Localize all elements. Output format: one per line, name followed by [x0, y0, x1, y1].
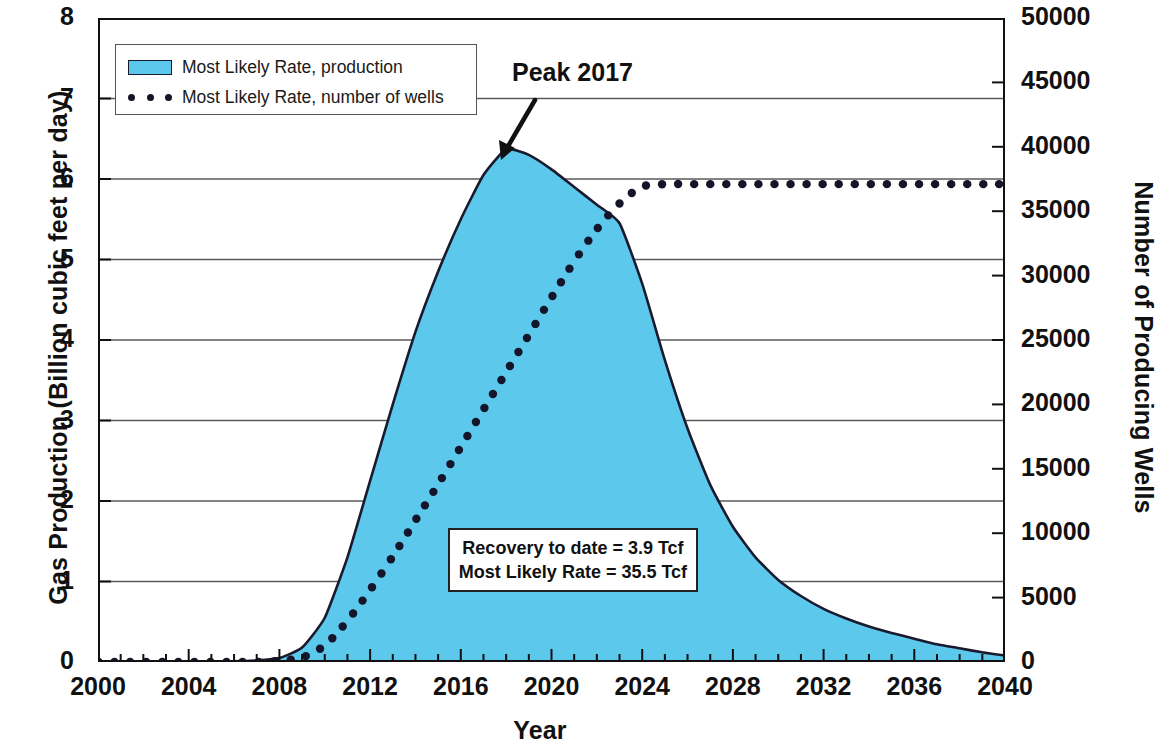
- wells-data-dot: [706, 180, 714, 188]
- wells-data-dot: [349, 609, 357, 617]
- y-axis-right-tick-label: 25000: [1021, 324, 1141, 353]
- y-axis-right-tick-label: 30000: [1021, 260, 1141, 289]
- y-axis-right-tick-label: 15000: [1021, 453, 1141, 482]
- y-axis-right-tick-label: 0: [1021, 646, 1141, 675]
- wells-data-dot: [979, 180, 987, 188]
- wells-data-dot: [947, 180, 955, 188]
- wells-data-dot: [995, 180, 1003, 188]
- wells-data-dot: [754, 180, 762, 188]
- wells-data-dot: [395, 542, 403, 550]
- callout-line-1: Recovery to date = 3.9 Tcf: [462, 536, 683, 560]
- wells-data-dot: [818, 180, 826, 188]
- wells-data-dot: [377, 569, 385, 577]
- y-axis-left-tick-label: 4: [14, 324, 74, 353]
- y-axis-left-tick-label: 8: [14, 2, 74, 31]
- wells-data-dot: [446, 460, 454, 468]
- chart-legend: Most Likely Rate, production Most Likely…: [115, 44, 477, 115]
- wells-data-dot: [404, 528, 412, 536]
- y-axis-right-tick-label: 40000: [1021, 131, 1141, 160]
- y-axis-right-tick-label: 45000: [1021, 66, 1141, 95]
- callout-line-2: Most Likely Rate = 35.5 Tcf: [459, 560, 687, 584]
- wells-data-dot: [899, 180, 907, 188]
- legend-label-wells: Most Likely Rate, number of wells: [182, 87, 444, 108]
- legend-label-production: Most Likely Rate, production: [182, 57, 403, 78]
- wells-data-dot: [455, 446, 463, 454]
- wells-data-dot: [674, 180, 682, 188]
- wells-data-dot: [690, 180, 698, 188]
- wells-data-dot: [642, 181, 650, 189]
- wells-data-dot: [584, 236, 592, 244]
- wells-data-dot: [867, 180, 875, 188]
- wells-data-dot: [540, 306, 548, 314]
- wells-data-dot: [328, 634, 336, 642]
- wells-data-dot: [575, 250, 583, 258]
- wells-data-dot: [963, 180, 971, 188]
- wells-data-dot: [472, 418, 480, 426]
- legend-item-wells: Most Likely Rate, number of wells: [128, 82, 466, 112]
- wells-data-dot: [387, 555, 395, 563]
- y-axis-left-tick-label: 3: [14, 405, 74, 434]
- wells-data-dot: [548, 292, 556, 300]
- wells-data-dot: [438, 474, 446, 482]
- y-axis-left-tick-label: 7: [14, 83, 74, 112]
- recovery-callout-box: Recovery to date = 3.9 Tcf Most Likely R…: [448, 528, 698, 592]
- wells-data-dot: [883, 180, 891, 188]
- y-axis-right-tick-label: 35000: [1021, 195, 1141, 224]
- legend-item-production: Most Likely Rate, production: [128, 52, 466, 82]
- wells-data-dot: [316, 645, 324, 653]
- peak-arrow-icon: [487, 96, 547, 166]
- wells-data-dot: [480, 404, 488, 412]
- wells-data-dot: [358, 596, 366, 604]
- wells-data-dot: [557, 278, 565, 286]
- wells-data-dot: [489, 390, 497, 398]
- wells-data-dot: [339, 622, 347, 630]
- wells-data-dot: [738, 180, 746, 188]
- x-axis-title: Year: [0, 716, 1080, 745]
- wells-data-dot: [604, 211, 612, 219]
- legend-dots-icon: [128, 94, 172, 101]
- y-axis-left-tick-label: 0: [14, 646, 74, 675]
- wells-data-dot: [412, 515, 420, 523]
- y-axis-right-tick-label: 20000: [1021, 388, 1141, 417]
- wells-data-dot: [628, 189, 636, 197]
- wells-data-dot: [565, 264, 573, 272]
- wells-data-dot: [786, 180, 794, 188]
- peak-annotation-label: Peak 2017: [512, 58, 633, 87]
- y-axis-left-tick-label: 6: [14, 163, 74, 192]
- wells-data-dot: [594, 224, 602, 232]
- wells-data-dot: [770, 180, 778, 188]
- y-axis-right-tick-label: 10000: [1021, 517, 1141, 546]
- wells-data-dot: [722, 180, 730, 188]
- legend-swatch-icon: [128, 60, 172, 75]
- wells-data-dot: [429, 488, 437, 496]
- wells-data-dot: [506, 362, 514, 370]
- wells-data-dot: [658, 180, 666, 188]
- y-axis-left-tick-label: 5: [14, 244, 74, 273]
- wells-data-dot: [531, 320, 539, 328]
- wells-data-dot: [463, 432, 471, 440]
- wells-data-dot: [523, 334, 531, 342]
- wells-data-dot: [931, 180, 939, 188]
- wells-data-dot: [514, 348, 522, 356]
- wells-data-dot: [421, 501, 429, 509]
- wells-data-dot: [851, 180, 859, 188]
- y-axis-left-tick-label: 1: [14, 566, 74, 595]
- wells-data-dot: [835, 180, 843, 188]
- wells-data-dot: [915, 180, 923, 188]
- y-axis-left-tick-label: 2: [14, 485, 74, 514]
- wells-data-dot: [497, 376, 505, 384]
- x-axis-tick-label: 2040: [945, 672, 1065, 701]
- wells-data-dot: [368, 583, 376, 591]
- y-axis-right-tick-label: 5000: [1021, 582, 1141, 611]
- y-axis-right-tick-label: 50000: [1021, 2, 1141, 31]
- wells-data-dot: [802, 180, 810, 188]
- wells-data-dot: [615, 199, 623, 207]
